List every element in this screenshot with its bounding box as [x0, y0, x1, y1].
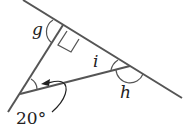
label-20-degrees: 20° — [16, 108, 46, 128]
label-g: g — [32, 19, 43, 39]
label-h: h — [120, 82, 131, 102]
angle-arc-vertex — [31, 79, 37, 89]
arrowhead-icon — [41, 79, 50, 86]
bottom-line — [20, 66, 130, 94]
right-angle-marker — [58, 31, 79, 52]
angle-diagram: g i h 20° — [0, 0, 183, 132]
angle-arc-g — [46, 20, 53, 43]
label-i: i — [93, 51, 98, 71]
